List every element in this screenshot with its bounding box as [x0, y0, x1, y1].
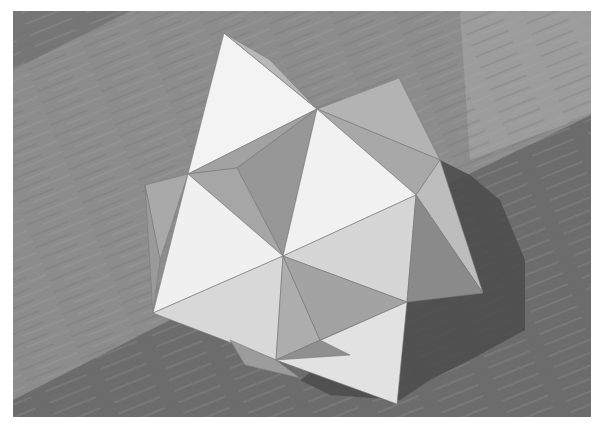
photo	[13, 11, 591, 417]
polyhedron-photo	[13, 11, 591, 417]
